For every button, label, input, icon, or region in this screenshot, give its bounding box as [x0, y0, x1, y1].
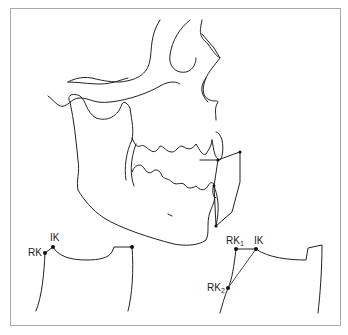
label-rk2: RK2: [207, 283, 225, 294]
ik-point: [51, 245, 55, 249]
label-rk1: RK1: [226, 236, 244, 247]
rk1-point: [234, 247, 238, 251]
right-incisor-diagram: [220, 245, 322, 313]
rk-point: [43, 251, 47, 255]
left-incisor-diagram: [36, 245, 134, 311]
cranium-lines: [48, 20, 220, 120]
label-rk-left: RK: [28, 248, 42, 258]
front-teeth: [214, 152, 240, 226]
label-ik-right: IK: [254, 236, 263, 246]
label-rk1-subscript: 1: [240, 240, 244, 247]
mandible: [69, 94, 215, 245]
foramen-mark: [168, 214, 172, 216]
tooth-point: [130, 245, 134, 249]
label-ik-left: IK: [50, 233, 59, 243]
label-rk1-base: RK: [226, 235, 240, 246]
rk2-point: [226, 286, 230, 290]
skull-diagram: [0, 0, 348, 335]
ik-point-right: [254, 247, 258, 251]
label-rk2-base: RK: [207, 282, 221, 293]
label-rk2-subscript: 2: [221, 287, 225, 294]
lower-teeth: [132, 165, 216, 198]
upper-teeth: [132, 132, 240, 160]
